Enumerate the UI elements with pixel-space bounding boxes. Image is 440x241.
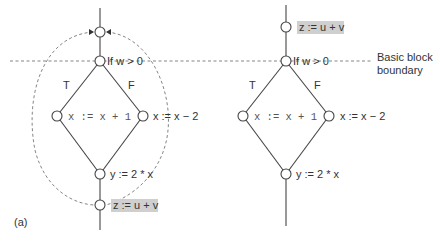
cond-node [281,56,291,66]
boundary-label-line2: boundary [377,64,423,76]
false-branch-label: F [128,79,135,91]
boundary-label-line1: Basic block [377,51,433,63]
cond-node [95,56,105,66]
true-branch-label: T [63,79,70,91]
moved-node [281,22,291,32]
else-node [138,111,148,121]
else-stmt: x := x − 2 [153,110,198,122]
panel-label: (a) [14,216,27,228]
else-node [324,111,334,121]
join-node [281,169,291,179]
arrowhead-icon [106,29,111,35]
join-stmt: y := 2 * x [296,168,340,180]
moved-stmt: z := u + v [299,21,345,33]
join-node [95,169,105,179]
then-stmt: x := x + 1 [68,111,131,123]
arrowhead-icon [89,29,94,35]
right-graph: z := u + v If w > 0 T F x := x + 1 x := … [238,5,385,226]
cond-label: If w > 0 [107,55,143,67]
then-node [238,111,248,121]
cond-label: If w > 0 [293,55,329,67]
true-branch-label: T [249,79,256,91]
false-branch-label: F [314,79,321,91]
then-node [52,111,62,121]
join-stmt: y := 2 * x [110,168,154,180]
left-graph: If w > 0 T F x := x + 1 x := x − 2 y := … [14,8,198,230]
then-stmt: x := x + 1 [254,111,317,123]
moved-stmt: z := u + v [113,199,159,211]
else-stmt: x := x − 2 [340,110,385,122]
code-motion-diagram: If w > 0 T F x := x + 1 x := x − 2 y := … [0,0,440,241]
entry-node [95,27,105,37]
moved-node [95,200,105,210]
